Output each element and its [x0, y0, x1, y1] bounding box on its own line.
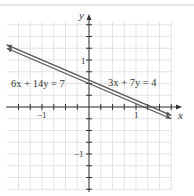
graph-figure: x y −1 1 1 −1 6x + 14y = 7 3x + 7y = 4 — [0, 0, 194, 196]
equation-label-6x-14y-7: 6x + 14y = 7 — [11, 78, 65, 89]
equation-label-3x-7y-4: 3x + 7y = 4 — [108, 77, 157, 88]
y-axis-label: y — [78, 9, 84, 21]
x-axis-label: x — [177, 109, 183, 121]
y-tick-label-1: 1 — [81, 56, 86, 66]
x-tick-label-neg1: −1 — [37, 110, 47, 120]
y-tick-label-neg1: −1 — [74, 149, 84, 159]
axes — [6, 14, 182, 192]
x-tick-label-1: 1 — [134, 110, 139, 120]
